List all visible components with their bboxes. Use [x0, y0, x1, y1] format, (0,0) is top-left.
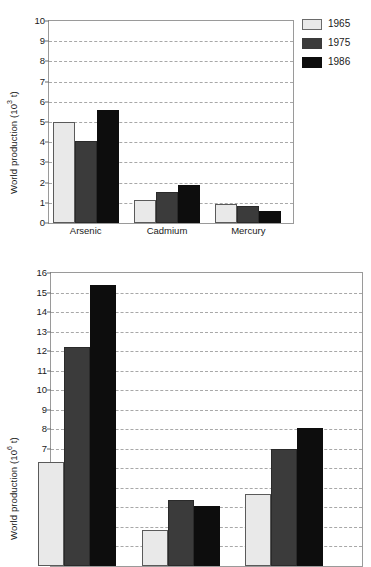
legend-swatch-icon-1965: [302, 19, 322, 30]
legend-label-1986: 1986: [328, 57, 350, 67]
legend-swatch-icon-1975: [302, 38, 322, 49]
legend: 1965 1975 1986: [302, 16, 350, 73]
x-axis-label-cadmium: Cadmium: [134, 226, 200, 236]
legend-swatch-icon-1986: [302, 57, 322, 68]
plot-area-top: 012345678910ArsenicCadmiumMercury: [48, 20, 294, 224]
bar-mercury-1975: [237, 206, 259, 223]
bar-group3-1975: [271, 449, 297, 566]
y-axis-label-bottom-tail: t): [8, 437, 19, 446]
plot-area-bottom: 2345678910111213141516: [50, 272, 363, 567]
bar-group: [38, 273, 116, 566]
bar-group: [142, 273, 220, 566]
bar-arsenic-1975: [75, 141, 97, 223]
y-axis-label-top: World production (103 t): [6, 64, 19, 194]
y-axis-tick-label: 1: [40, 198, 49, 208]
bar-group3-1986: [297, 428, 323, 566]
y-axis-label-bottom: World production (106 t): [6, 400, 19, 540]
bar-cadmium-1965: [134, 200, 156, 223]
bar-cadmium-1986: [178, 185, 200, 223]
bar-group2-1965: [142, 530, 168, 566]
bar-group2-1986: [194, 506, 220, 566]
bar-group: [245, 273, 323, 566]
y-axis-tick-label: 4: [40, 137, 49, 147]
y-axis-tick-label: 8: [40, 57, 49, 67]
legend-label-1965: 1965: [328, 19, 350, 29]
bar-group1-1986: [90, 285, 116, 566]
x-axis-label-mercury: Mercury: [215, 226, 281, 236]
y-axis-tick-label: 0: [40, 218, 49, 228]
legend-label-1975: 1975: [328, 38, 350, 48]
bar-container: ArsenicCadmiumMercury: [49, 21, 293, 223]
y-axis-tick-label: 2: [40, 178, 49, 188]
legend-item-1965: 1965: [302, 16, 350, 32]
y-axis-tick-label: 7: [40, 77, 49, 87]
y-axis-label-top-tail: t): [8, 91, 19, 100]
bar-mercury-1965: [215, 204, 237, 223]
legend-item-1986: 1986: [302, 54, 350, 70]
y-axis-tick-label: 5: [40, 117, 49, 127]
y-axis-label-bottom-exponent: 6: [6, 446, 13, 450]
bar-group: Mercury: [215, 21, 281, 223]
bar-group1-1975: [64, 347, 90, 566]
bar-container: [51, 273, 362, 566]
bar-group1-1965: [38, 462, 64, 566]
bar-mercury-1986: [259, 211, 281, 223]
bar-cadmium-1975: [156, 192, 178, 223]
y-axis-tick-label: 3: [40, 158, 49, 168]
y-axis-tick-label: 10: [34, 16, 49, 26]
bar-arsenic-1965: [53, 122, 75, 223]
y-axis-tick-label: 9: [40, 36, 49, 46]
y-axis-label-bottom-base: World production (10: [8, 450, 19, 540]
bar-group3-1965: [245, 494, 271, 566]
chart-panel-bottom: World production (106 t) 234567891011121…: [0, 248, 371, 558]
bar-arsenic-1986: [97, 110, 119, 223]
bar-group2-1975: [168, 500, 194, 566]
y-axis-tick-label: 6: [40, 97, 49, 107]
y-axis-label-top-exponent: 3: [6, 100, 13, 104]
legend-item-1975: 1975: [302, 35, 350, 51]
bar-group: Arsenic: [53, 21, 119, 223]
x-axis-label-arsenic: Arsenic: [53, 226, 119, 236]
y-axis-label-top-base: World production (10: [8, 104, 19, 194]
bar-group: Cadmium: [134, 21, 200, 223]
